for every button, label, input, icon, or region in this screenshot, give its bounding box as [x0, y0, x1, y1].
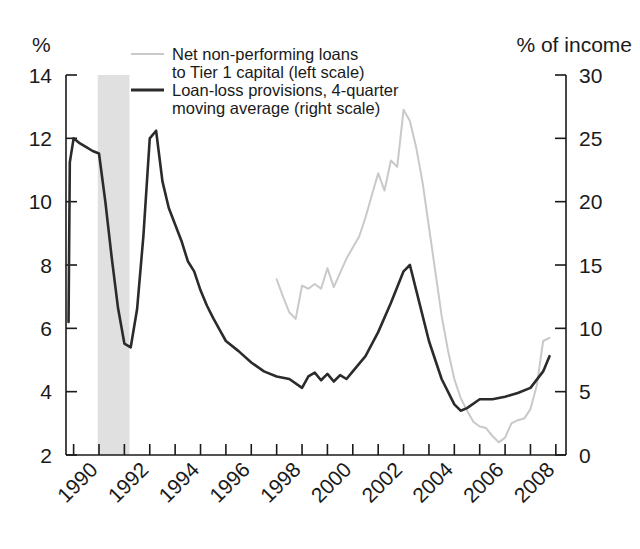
- right-axis-tick-label: 30: [579, 64, 602, 87]
- series-line-loan-loss-provisions: [69, 131, 550, 411]
- left-axis-tick-label: 6: [40, 317, 52, 340]
- x-axis-tick-label: 2008: [509, 458, 558, 507]
- x-axis-tick-label: 1998: [256, 458, 305, 507]
- right-axis-title: % of income: [516, 33, 632, 56]
- left-axis-tick-label: 10: [29, 190, 52, 213]
- x-axis-tick-label: 1992: [103, 458, 152, 507]
- chart-svg: 2468101214051015202530199019921994199619…: [0, 0, 640, 549]
- right-axis-tick-label: 5: [579, 380, 591, 403]
- legend-layer: Net non-performing loansto Tier 1 capita…: [131, 45, 399, 117]
- chart-figure: 2468101214051015202530199019921994199619…: [0, 0, 640, 549]
- left-axis-tick-label: 14: [29, 64, 53, 87]
- right-axis-tick-label: 25: [579, 127, 602, 150]
- x-axis-tick-label: 1990: [53, 458, 102, 507]
- x-axis-tick-label: 2006: [459, 458, 508, 507]
- right-axis-tick-label: 20: [579, 190, 602, 213]
- left-axis-tick-label: 8: [40, 254, 52, 277]
- legend-label-line2: moving average (right scale): [172, 99, 380, 117]
- left-axis-tick-label: 4: [40, 380, 52, 403]
- left-axis-title: %: [32, 33, 51, 56]
- series-layer: [69, 110, 550, 443]
- x-axis-tick-label: 1996: [205, 458, 254, 507]
- legend-label-line2: to Tier 1 capital (left scale): [172, 63, 365, 81]
- x-axis-tick-label: 2002: [357, 458, 406, 507]
- legend-label-line1: Net non-performing loans: [172, 45, 358, 63]
- legend-label-line1: Loan-loss provisions, 4-quarter: [172, 81, 399, 99]
- right-axis-tick-label: 10: [579, 317, 602, 340]
- x-axis-tick-label: 2000: [306, 458, 355, 507]
- x-axis-tick-label: 2004: [408, 457, 458, 507]
- x-axis-tick-label: 1994: [154, 457, 204, 507]
- left-axis-tick-label: 2: [40, 444, 52, 467]
- right-axis-tick-label: 0: [579, 444, 591, 467]
- left-axis-tick-label: 12: [29, 127, 52, 150]
- right-axis-tick-label: 15: [579, 254, 602, 277]
